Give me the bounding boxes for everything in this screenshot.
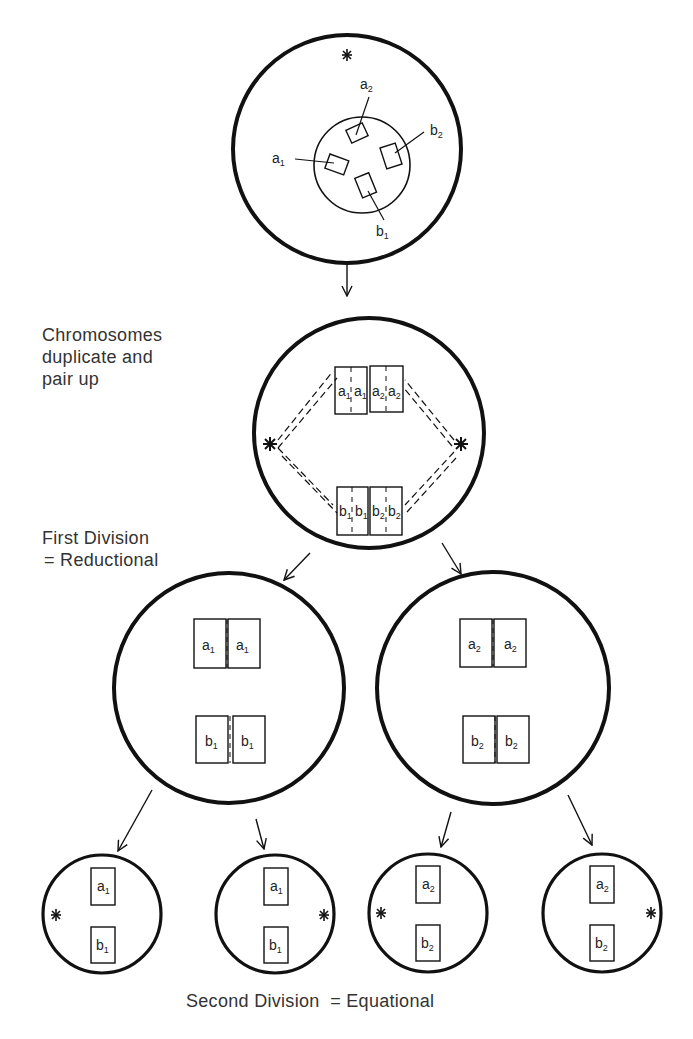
- paired-cell: a1 a1 a2 a2 b1 b1 b2 b2: [254, 318, 484, 548]
- svg-text:b1: b1: [355, 503, 368, 521]
- svg-text:a1: a1: [270, 878, 283, 896]
- arrow-to-second-4: [568, 795, 592, 845]
- label-first-division: First Division = Reductional: [42, 527, 158, 571]
- arrow-to-second-2: [256, 819, 264, 849]
- chromosome-b2: [380, 143, 402, 169]
- label-a1: a1: [272, 150, 285, 168]
- label-line: duplicate and: [42, 346, 162, 368]
- svg-text:a2: a2: [388, 383, 401, 401]
- second-division-cell-4: a2 b2: [543, 854, 661, 972]
- centrosome-asterisk-icon: [319, 909, 329, 921]
- arrow-to-first-right: [442, 543, 461, 574]
- svg-text:a1: a1: [354, 383, 367, 401]
- chromosome-a1: [325, 154, 349, 175]
- meiosis-diagram: a2 a1 b2 b1: [0, 0, 693, 1039]
- label-line: = Reductional: [42, 549, 158, 571]
- nucleus: [314, 117, 410, 213]
- second-division-cell-1: a1 b1: [43, 855, 161, 973]
- arrow-to-second-1: [118, 790, 152, 851]
- chromosome-b1: [355, 173, 377, 198]
- svg-text:b1: b1: [205, 733, 218, 751]
- arrow-to-second-3: [441, 812, 451, 847]
- svg-text:a2: a2: [422, 876, 435, 894]
- svg-text:a1: a1: [236, 637, 249, 655]
- svg-text:b1: b1: [339, 503, 352, 521]
- svg-text:b1: b1: [269, 937, 282, 955]
- svg-text:b2: b2: [595, 935, 608, 953]
- centrosome-right-asterisk-icon: [454, 437, 468, 451]
- centrosome-asterisk-icon: [51, 909, 61, 921]
- svg-text:a1: a1: [202, 637, 215, 655]
- svg-text:a2: a2: [372, 383, 385, 401]
- svg-text:a2: a2: [596, 876, 609, 894]
- svg-text:b1: b1: [241, 733, 254, 751]
- label-line: First Division: [42, 527, 158, 549]
- svg-text:b2: b2: [421, 935, 434, 953]
- label-chromosomes-duplicate: Chromosomes duplicate and pair up: [42, 324, 162, 390]
- first-division-cell-right: a2 a2 b2 b2: [377, 572, 609, 804]
- first-division-cell-left: a1 a1 b1 b1: [114, 573, 344, 803]
- arrow-to-first-left: [284, 553, 310, 580]
- label-b1: b1: [376, 223, 389, 241]
- svg-text:a2: a2: [468, 636, 481, 654]
- svg-text:a1: a1: [97, 878, 110, 896]
- parent-cell: a2 a1 b2 b1: [233, 35, 461, 263]
- svg-text:a1: a1: [338, 383, 351, 401]
- second-division-cell-2: a1 b1: [216, 855, 334, 973]
- label-line: Chromosomes: [42, 324, 162, 346]
- centrosome-asterisk-icon: [646, 907, 656, 919]
- label-line: pair up: [42, 368, 162, 390]
- svg-text:b2: b2: [388, 503, 401, 521]
- svg-text:a2: a2: [504, 636, 517, 654]
- centrosome-asterisk-icon: [342, 49, 352, 61]
- svg-text:b2: b2: [372, 503, 385, 521]
- label-b2: b2: [430, 122, 443, 140]
- svg-text:b2: b2: [505, 733, 518, 751]
- second-division-cell-3: a2 b2: [369, 854, 487, 972]
- label-second-division: Second Division = Equational: [186, 990, 434, 1012]
- label-a2: a2: [360, 76, 373, 94]
- centrosome-asterisk-icon: [376, 907, 386, 919]
- svg-text:b1: b1: [96, 937, 109, 955]
- svg-text:b2: b2: [471, 733, 484, 751]
- centrosome-left-asterisk-icon: [263, 437, 277, 451]
